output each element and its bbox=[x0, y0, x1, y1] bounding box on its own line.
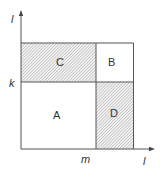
region-d-label: D bbox=[110, 107, 118, 119]
k-tick-label: k bbox=[9, 77, 15, 89]
region-b-label: B bbox=[108, 56, 115, 68]
region-a-label: A bbox=[53, 109, 61, 121]
x-axis-label: l bbox=[143, 155, 146, 167]
x-axis-arrow-icon bbox=[149, 147, 155, 151]
partition-diagram: l l k m C B A D bbox=[0, 0, 163, 174]
y-axis-arrow-icon bbox=[19, 10, 23, 16]
m-tick-label: m bbox=[81, 153, 90, 165]
region-c-label: C bbox=[56, 56, 64, 68]
y-axis-label: l bbox=[11, 13, 14, 25]
